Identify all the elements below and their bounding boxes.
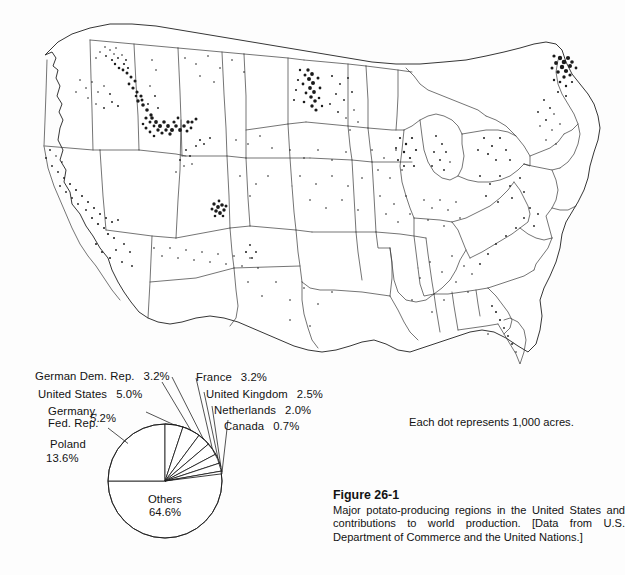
pie-slice-poland [108, 424, 165, 481]
pie-label-united-states-name: United States [38, 388, 107, 400]
pie-label-others-name: Others [125, 493, 205, 506]
pie-label-united-states-pct: 5.0% [116, 388, 142, 400]
figure-caption-text: Major potato-producing regions in the Un… [333, 504, 625, 543]
pie-label-united-states: United States5.0% [38, 388, 142, 401]
pie-label-poland-pct: 13.6% [46, 452, 79, 465]
pie-label-german-dem-rep-name: German Dem. Rep. [35, 370, 135, 382]
pie-label-france: France3.2% [196, 371, 267, 384]
figure-container: German Dem. Rep.3.2% United States5.0% G… [0, 0, 625, 575]
pie-label-united-kingdom-name: United Kingdom [206, 388, 288, 400]
pie-label-others-pct: 64.6% [125, 506, 205, 519]
pie-label-others: Others 64.6% [125, 493, 205, 520]
pie-label-canada-name: Canada [224, 420, 264, 432]
figure-number: Figure 26-1 [333, 487, 625, 503]
pie-label-netherlands: Netherlands2.0% [214, 404, 311, 417]
pie-label-poland-name: Poland [50, 438, 86, 451]
pie-label-united-kingdom: United Kingdom2.5% [206, 388, 323, 401]
pie-label-netherlands-name: Netherlands [214, 404, 276, 416]
pie-label-german-dem-rep-pct: 3.2% [144, 370, 170, 382]
pie-label-netherlands-pct: 2.0% [285, 404, 311, 416]
pie-label-germany-fed-rep-pct: 5.2% [90, 412, 116, 425]
pie-label-france-pct: 3.2% [241, 371, 267, 383]
dot-legend-note: Each dot represents 1,000 acres. [409, 416, 574, 428]
pie-label-german-dem-rep: German Dem. Rep.3.2% [35, 370, 170, 383]
pie-label-canada-pct: 0.7% [273, 420, 299, 432]
pie-label-united-kingdom-pct: 2.5% [297, 388, 323, 400]
pie-label-france-name: France [196, 371, 232, 383]
pie-label-canada: Canada0.7% [224, 420, 299, 433]
figure-caption: Figure 26-1 Major potato-producing regio… [333, 487, 625, 544]
